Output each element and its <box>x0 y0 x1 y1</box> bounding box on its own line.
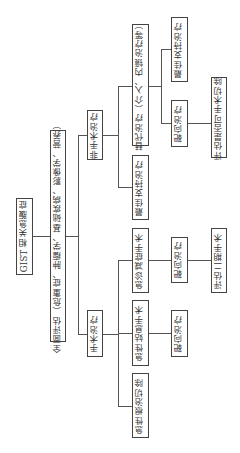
connector-targeted-to-evaluate <box>188 123 211 124</box>
node-targeted-top-label: 靶向治疗 <box>175 105 184 142</box>
connector-nonsurgical-vertical <box>118 86 119 187</box>
node-targeted-top: 靶向治疗 <box>171 100 188 147</box>
node-root: GIST 相关急腹症 <box>16 198 33 275</box>
node-surgical: 手术治疗 <box>87 310 103 357</box>
connector-to-alternative <box>118 86 132 87</box>
connector-assess-split <box>66 236 78 237</box>
connector-root-assess <box>33 236 50 237</box>
connector-split-vertical <box>78 135 79 335</box>
node-radical: 急性根治切除 <box>132 373 149 438</box>
node-palliative: 急性姑息手术 <box>132 300 149 366</box>
connector-targeted-to-secondstage <box>188 260 211 261</box>
connector-to-support-top <box>161 49 171 50</box>
node-evaluate-second-stage-label: 评估二期手术 <box>215 233 224 289</box>
node-assessment-label: 全面评估（危重症、肿瘤学、基础疾病、影像学、营养） <box>54 120 63 353</box>
node-assessment: 全面评估（危重症、肿瘤学、基础疾病、影像学、营养） <box>50 130 66 342</box>
connector-to-nonsurgical <box>78 135 87 136</box>
node-support-mid-label: 最佳支持治疗 <box>136 160 145 216</box>
connector-to-targeted-top <box>161 123 171 124</box>
node-surgical-label: 手术治疗 <box>91 315 100 352</box>
connector-nonsurgical-out <box>103 135 118 136</box>
node-alternative: 替代治疗（介入、内镜治疗等） <box>132 24 149 146</box>
node-palliative-label: 急性姑息手术 <box>136 305 145 361</box>
node-targeted-palliative: 靶向治疗 <box>171 310 188 357</box>
node-alternative-label: 替代治疗（介入、内镜治疗等） <box>136 20 145 150</box>
node-support-top: 最佳支持治疗 <box>171 17 188 82</box>
node-evaluate-resectable-label: 评估是否可手术切除 <box>215 76 224 160</box>
connector-alternative-out <box>149 86 161 87</box>
node-emergency-relief-label: 急诊减症手术 <box>136 233 145 289</box>
connector-alternative-vertical <box>161 49 162 123</box>
connector-to-relief <box>118 260 132 261</box>
connector-to-radical <box>118 406 132 407</box>
node-emergency-relief: 急诊减症手术 <box>132 228 149 293</box>
node-nonsurgical: 非手术治疗 <box>87 110 103 160</box>
node-evaluate-second-stage: 评估二期手术 <box>211 228 227 293</box>
node-targeted-relief: 靶向治疗 <box>171 237 188 283</box>
connector-to-surgical <box>78 334 87 335</box>
node-evaluate-resectable: 评估是否可手术切除 <box>211 77 227 158</box>
node-targeted-palliative-label: 靶向治疗 <box>175 315 184 352</box>
connector-to-support-mid <box>118 187 132 188</box>
connector-relief-to-targeted <box>149 260 171 261</box>
node-support-mid: 最佳支持治疗 <box>132 155 149 220</box>
connector-surgical-out <box>103 334 118 335</box>
connector-palliative-to-targeted <box>149 333 171 334</box>
node-nonsurgical-label: 非手术治疗 <box>91 112 100 159</box>
node-root-label: GIST 相关急腹症 <box>20 200 29 272</box>
node-targeted-relief-label: 靶向治疗 <box>175 241 184 278</box>
connector-to-palliative <box>118 333 132 334</box>
node-support-top-label: 最佳支持治疗 <box>175 22 184 78</box>
node-radical-label: 急性根治切除 <box>136 378 145 434</box>
